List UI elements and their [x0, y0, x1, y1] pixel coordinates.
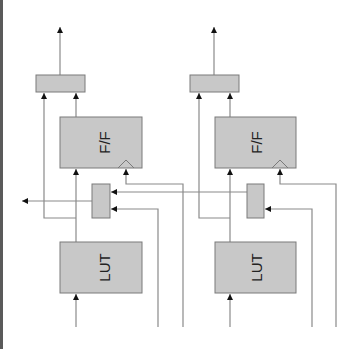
- cell-1-lut-label: LUT: [96, 253, 113, 281]
- cell-1-output-mux: [36, 75, 85, 92]
- logic-cell-diagram: F/F LUT F/F LUT: [0, 0, 349, 349]
- cell-1-select-mux: [92, 184, 110, 218]
- cell-2: F/F LUT: [190, 27, 336, 327]
- cell-2-output-mux: [190, 75, 239, 92]
- cell-2-flipflop-label: F/F: [248, 131, 265, 154]
- cell-2-select-mux: [247, 184, 264, 218]
- cell-1: F/F LUT: [22, 27, 247, 327]
- cell-1-flipflop-label: F/F: [96, 131, 113, 154]
- cell-2-lut-label: LUT: [248, 253, 265, 281]
